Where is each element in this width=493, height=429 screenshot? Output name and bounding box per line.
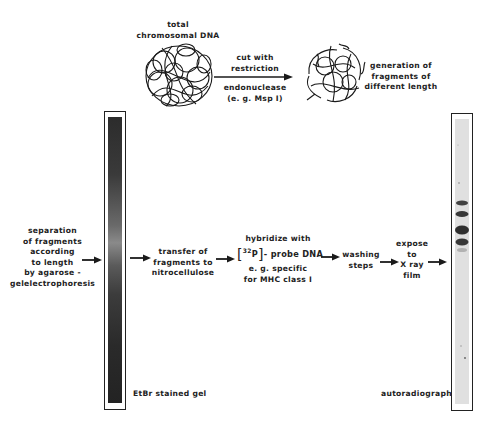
cut-line-1: cut with: [210, 53, 300, 64]
washing-steps-label: washing steps: [340, 250, 382, 271]
autoradiograph-bands: [455, 119, 469, 404]
cut-arrow-icon: [214, 72, 294, 82]
hybridize-specific-label: e. g. specific for MHC class I: [236, 264, 320, 285]
endonuclease-label: endonuclease (e. g. Msp I): [205, 83, 305, 104]
generation-line-2: fragments of: [364, 72, 438, 83]
hybridize-line-4: for MHC class I: [236, 275, 320, 286]
cut-with-restriction-label: cut with restriction: [210, 53, 300, 74]
generation-of-fragments-label: generation of fragments of different len…: [364, 61, 438, 93]
total-dna-label: total chromosomal DNA: [128, 20, 228, 41]
fragmented-dna-tangle-icon: [303, 44, 365, 106]
transfer-label: transfer of fragments to nitrocellulose: [150, 247, 216, 279]
expose-line-4: film: [396, 271, 428, 282]
expose-label: expose to X ray film: [396, 239, 428, 281]
total-dna-line-1: total: [128, 20, 228, 31]
arrow-to-transfer-icon: [130, 254, 152, 262]
generation-line-3: different length: [364, 82, 438, 93]
expose-line-3: X ray: [396, 260, 428, 271]
hybridize-title: hybridize with: [236, 234, 320, 245]
transfer-line-2: fragments to: [150, 258, 216, 269]
washing-line-1: washing: [340, 250, 382, 261]
arrow-to-gel-icon: [82, 256, 102, 264]
washing-line-2: steps: [340, 261, 382, 272]
arrow-to-washing-icon: [321, 253, 341, 261]
total-dna-line-2: chromosomal DNA: [128, 31, 228, 42]
transfer-line-1: transfer of: [150, 247, 216, 258]
isotope-number: 32: [243, 247, 252, 254]
band-3: [455, 226, 469, 235]
probe-dna-text: - probe DNA: [264, 249, 323, 259]
expose-line-1: expose: [396, 239, 428, 250]
band-4: [456, 239, 469, 246]
separation-line-6: gelelectrophoresis: [10, 279, 95, 290]
band-2: [456, 211, 469, 217]
generation-line-1: generation of: [364, 61, 438, 72]
separation-line-1: separation: [10, 226, 95, 237]
separation-line-2: of fragments: [10, 237, 95, 248]
autoradiograph-label: autoradiograph: [381, 389, 452, 400]
transfer-line-3: nitrocellulose: [150, 268, 216, 279]
endonuclease-line-2: (e. g. Msp I): [205, 94, 305, 105]
hybridize-label: hybridize with: [236, 234, 320, 245]
probe-label: [32P]- probe DNA: [237, 246, 321, 259]
separation-line-5: by agarose -: [10, 268, 95, 279]
expose-line-2: to: [396, 250, 428, 261]
arrow-to-autoradiograph-icon: [428, 258, 448, 266]
etbr-gel-lane: [108, 117, 122, 403]
arrow-to-hybridize-icon: [216, 255, 236, 263]
etbr-gel-label: EtBr stained gel: [133, 389, 207, 400]
endonuclease-line-1: endonuclease: [205, 83, 305, 94]
hybridize-line-3: e. g. specific: [236, 264, 320, 275]
band-1: [456, 200, 468, 205]
